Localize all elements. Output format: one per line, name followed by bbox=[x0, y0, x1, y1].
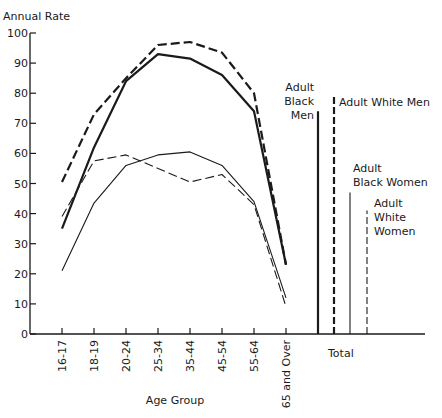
x-tick-label: 16-17 bbox=[56, 340, 69, 372]
bar-label-black-men: Adult bbox=[285, 81, 314, 94]
y-tick-label: 70 bbox=[14, 117, 28, 130]
bar-label-white-women: Women bbox=[374, 225, 415, 238]
x-tick-label: 18-19 bbox=[88, 340, 101, 372]
y-tick-label: 100 bbox=[7, 27, 28, 40]
bar-label-black-men: Men bbox=[291, 109, 314, 122]
total-label: Total bbox=[327, 347, 354, 360]
bar-label-black-men: Black bbox=[284, 95, 314, 108]
y-tick-label: 20 bbox=[14, 268, 28, 281]
labor-rate-chart: 0102030405060708090100Annual Rate16-1718… bbox=[0, 0, 442, 418]
bar-label-white-men: Adult White Men bbox=[339, 96, 430, 109]
x-tick-label: 35-44 bbox=[184, 340, 197, 372]
y-tick-label: 10 bbox=[14, 298, 28, 311]
series-line-adult-black-men bbox=[62, 54, 286, 265]
series-line-adult-black-women bbox=[62, 152, 286, 298]
bar-label-white-women: Adult bbox=[374, 197, 403, 210]
bar-label-black-women: Adult bbox=[353, 162, 382, 175]
y-tick-label: 0 bbox=[21, 328, 28, 341]
x-tick-label: 20-24 bbox=[120, 340, 133, 372]
x-tick-label: 45-54 bbox=[216, 340, 229, 372]
y-tick-label: 60 bbox=[14, 147, 28, 160]
x-axis-title: Age Group bbox=[146, 394, 204, 407]
bar-label-black-women: Black Women bbox=[353, 176, 428, 189]
x-tick-label: 65 and Over bbox=[280, 340, 293, 409]
x-tick-label: 25-34 bbox=[152, 340, 165, 372]
x-tick-label: 55-64 bbox=[248, 340, 261, 372]
y-tick-label: 50 bbox=[14, 178, 28, 191]
y-tick-label: 90 bbox=[14, 57, 28, 70]
y-tick-label: 40 bbox=[14, 208, 28, 221]
y-tick-label: 80 bbox=[14, 87, 28, 100]
series-line-adult-white-women bbox=[62, 155, 286, 307]
bar-label-white-women: White bbox=[374, 211, 406, 224]
y-tick-label: 30 bbox=[14, 238, 28, 251]
y-axis-title: Annual Rate bbox=[3, 10, 70, 23]
